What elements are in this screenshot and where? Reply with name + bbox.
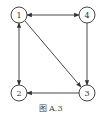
node-1: 1	[11, 7, 27, 23]
edge-1-3	[25, 21, 81, 87]
node-label: 2	[16, 89, 21, 98]
node-label: 4	[84, 11, 89, 20]
figure-caption: 图 A.3	[0, 102, 101, 113]
node-2: 2	[11, 85, 27, 101]
node-label: 3	[84, 89, 89, 98]
node-4: 4	[79, 7, 95, 23]
node-label: 1	[16, 11, 21, 20]
node-3: 3	[79, 85, 95, 101]
